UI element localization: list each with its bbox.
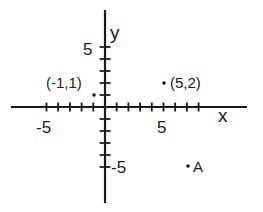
y-tick-label-neg5: -5 [111, 158, 126, 177]
point-A-label: A [193, 158, 203, 175]
point-5-2-label: (5,2) [170, 74, 201, 91]
coordinate-plane-svg: x y -5 5 5 -5 (-1,1) (5,2) A [0, 0, 263, 212]
y-tick-label-5: 5 [83, 40, 92, 59]
y-axis-label: y [110, 22, 120, 43]
point-neg1-1-dot [92, 93, 96, 97]
x-tick-label-5: 5 [157, 118, 166, 137]
x-axis-label: x [218, 105, 228, 126]
point-5-2-dot [162, 81, 166, 85]
coordinate-plane-diagram: x y -5 5 5 -5 (-1,1) (5,2) A [0, 0, 263, 212]
point-neg1-1-label: (-1,1) [46, 74, 82, 91]
point-A-dot [186, 164, 190, 168]
x-tick-label-neg5: -5 [36, 118, 51, 137]
